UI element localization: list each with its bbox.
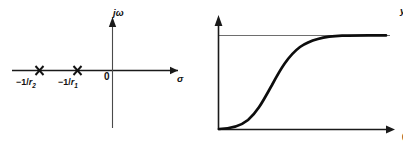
step-response-curve	[219, 35, 386, 129]
pole-label-1-subscript: 1	[74, 82, 78, 89]
pole-label-2-subscript: 2	[32, 82, 36, 89]
pole-label-1-prefix: −1/	[58, 77, 71, 87]
imaginary-axis-arrowhead	[109, 17, 116, 27]
figure-container: jω σ 0 −1/r2 −1/r1 y(t) 1 0 t ζ > 1	[0, 0, 403, 153]
pole-label-1: −1/r1	[58, 78, 78, 89]
pole-label-2-prefix: −1/	[16, 77, 29, 87]
pole-label-2: −1/r2	[16, 78, 36, 89]
real-axis-label: σ	[177, 74, 183, 84]
step-response-svg	[200, 0, 403, 153]
origin-label-left: 0	[104, 72, 110, 82]
time-axis-arrowhead	[386, 126, 395, 134]
pole-zero-plot-panel: jω σ 0 −1/r2 −1/r1	[0, 0, 200, 153]
imaginary-axis-label: jω	[113, 8, 124, 18]
y-axis-arrowhead	[215, 15, 223, 26]
step-response-plot-panel: y(t) 1 0 t ζ > 1	[200, 0, 403, 153]
